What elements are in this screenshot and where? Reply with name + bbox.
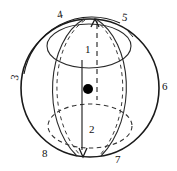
sphere-diagram-canvas bbox=[0, 0, 177, 171]
label-7: 7 bbox=[115, 154, 121, 165]
label-8: 8 bbox=[42, 148, 48, 159]
back-meridian-left-dashed bbox=[57, 20, 85, 155]
label-6: 6 bbox=[162, 81, 168, 92]
label-4: 4 bbox=[56, 9, 63, 21]
sphere-diagram-figure: 1 2 3 4 5 6 7 8 bbox=[0, 0, 177, 171]
sphere-center-marker bbox=[83, 84, 93, 94]
back-meridian-right-dashed bbox=[95, 20, 123, 155]
label-1: 1 bbox=[85, 44, 91, 55]
label-2: 2 bbox=[89, 124, 95, 135]
label-5: 5 bbox=[121, 12, 128, 24]
